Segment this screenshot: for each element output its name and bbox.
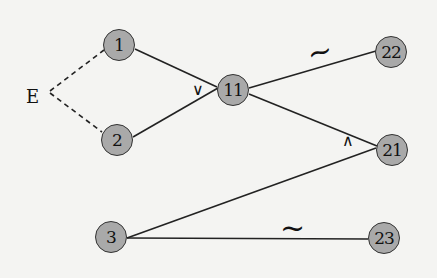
node-23-label: 23 (374, 228, 394, 248)
node-1: 1 (103, 29, 135, 61)
node-1-label: 1 (114, 35, 124, 55)
node-22: 22 (375, 36, 407, 68)
graph-diagram: E 1 2 3 11 22 21 23 ∨ ∧ ~ ~ (0, 0, 437, 278)
start-label-e: E (26, 86, 39, 107)
node-21: 21 (376, 134, 408, 166)
edge-3-23 (127, 238, 368, 239)
edge-2-11 (133, 88, 218, 137)
tilde-mark-3-23: ~ (280, 210, 305, 245)
edge-3-21 (127, 148, 376, 238)
edge-e-2 (50, 93, 102, 132)
edge-e-1 (50, 50, 104, 91)
or-symbol: ∨ (192, 80, 204, 99)
node-2: 2 (101, 124, 133, 156)
edge-1-11 (135, 49, 217, 87)
node-2-label: 2 (112, 130, 122, 150)
node-3-label: 3 (106, 227, 116, 247)
node-3: 3 (95, 221, 127, 253)
node-11: 11 (217, 74, 249, 106)
node-11-label: 11 (223, 80, 243, 100)
and-symbol: ∧ (342, 131, 354, 150)
node-21-label: 21 (382, 140, 402, 160)
node-23: 23 (368, 222, 400, 254)
edge-11-21 (249, 94, 377, 146)
node-22-label: 22 (381, 42, 401, 62)
